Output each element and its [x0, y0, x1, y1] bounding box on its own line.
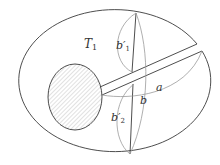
chord-upper [132, 13, 136, 72]
chord-lower [130, 84, 133, 154]
label-a: a [156, 81, 163, 94]
slit-upper-edge [100, 44, 197, 87]
hatched-hole [48, 64, 102, 130]
slit-lower-edge [102, 51, 202, 95]
diagram-canvas: T1 b′1 b′2 b a [0, 0, 220, 165]
label-T1: T1 [84, 37, 97, 52]
curve-b [130, 13, 146, 154]
label-b: b [140, 94, 147, 107]
label-b1: b′1 [116, 39, 130, 53]
label-b2: b′2 [111, 111, 125, 125]
